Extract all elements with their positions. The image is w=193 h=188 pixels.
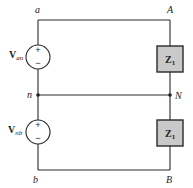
source-an-plus: +: [35, 45, 40, 55]
impedance-z1-bottom: Z1: [157, 120, 183, 146]
voltage-source-nb: + − Vnb: [8, 120, 50, 144]
voltage-source-an: + − Van: [9, 45, 50, 69]
circuit-diagram: + − Van + − Vnb Z1 Z1 a A n N b B: [0, 0, 193, 188]
node-label-B: B: [166, 174, 172, 185]
node-label-a: a: [35, 4, 40, 15]
source-nb-minus: −: [35, 133, 40, 143]
node-label-n: n: [27, 89, 32, 100]
source-an-label: Van: [9, 49, 24, 62]
node-label-N: N: [174, 90, 183, 101]
source-nb-plus: +: [35, 120, 40, 130]
node-n-dot: [36, 93, 40, 97]
source-an-minus: −: [35, 58, 40, 68]
node-label-b: b: [33, 174, 38, 185]
node-label-A: A: [166, 4, 174, 15]
impedance-z1-top: Z1: [157, 46, 183, 72]
node-N-dot: [168, 93, 172, 97]
wires: [38, 20, 170, 170]
source-nb-label: Vnb: [8, 124, 23, 137]
